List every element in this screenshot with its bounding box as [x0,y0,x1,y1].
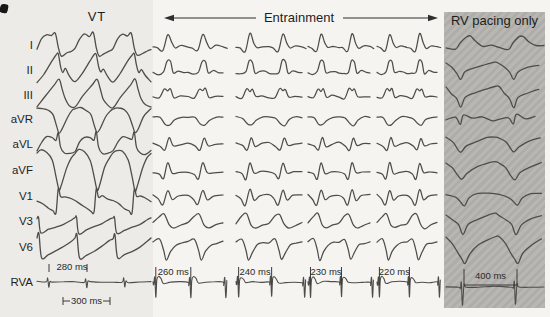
ecg-trace [153,138,223,151]
rv-pacing-section-label: RV pacing only [445,13,544,28]
ecg-trace [377,137,437,150]
ecg-trace [37,107,151,133]
rv-pacing-cycle-length-label: 400 ms [475,270,506,281]
entrainment-cycle-length-label-1: 240 ms [240,266,271,277]
ecg-trace [37,216,151,234]
ecg-trace [446,193,541,206]
lead-label-V3: V3 [19,215,33,227]
ecg-trace [37,232,151,259]
ecg-trace [308,34,374,52]
ecg-trace [37,132,151,155]
ecg-trace [153,163,223,180]
ecg-trace [37,79,151,108]
ecg-trace [236,239,302,261]
ecg-trace [153,239,223,261]
ecg-trace [236,189,302,206]
vt-bracket-interval-label: 300 ms [71,295,102,306]
ecg-trace [446,36,544,50]
lead-label-I: I [30,39,33,51]
ecg-trace [377,238,437,260]
ecg-trace [308,137,370,150]
ecg-trace [377,33,441,52]
ecg-trace [308,163,370,180]
entrainment-section-label: Entrainment [259,10,339,25]
lead-label-aVL: aVL [13,138,34,150]
ecg-trace [153,117,223,126]
ecg-trace [153,190,223,205]
ecg-trace [308,60,370,75]
ecg-trace [377,213,437,228]
lead-label-aVF: aVF [12,164,33,176]
ecg-trace [153,60,223,75]
ecg-trace [153,214,223,228]
ecg-trace [153,34,227,51]
entrainment-arrow-left-head-icon [164,15,174,22]
ecg-trace [377,88,437,98]
ecg-trace [446,137,540,152]
ecg-trace [446,114,535,124]
lead-label-III: III [23,89,33,101]
ecg-trace [153,88,223,98]
ecg-trace [308,116,370,125]
ecg-trace [236,163,302,180]
ecg-trace [37,278,151,288]
ecg-trace [377,162,437,179]
ecg-trace [37,188,151,215]
ecg-trace [37,149,151,191]
ecg-figure: IIIIIIaVRaVLaVFV1V3V6RVA280 ms300 ms260 … [0,0,550,317]
vt-cycle-length-label: 280 ms [56,261,87,272]
ecg-trace [446,162,541,180]
ecg-trace [377,116,437,125]
ecg-trace [236,117,302,126]
ecg-trace [308,213,370,228]
ecg-trace [308,238,370,260]
ecg-trace [236,138,302,150]
ecg-trace [37,53,151,83]
entrainment-cycle-length-label-3: 220 ms [379,266,410,277]
ecg-traces-canvas: IIIIIIaVRaVLaVFV1V3V6RVA280 ms300 ms260 … [0,0,550,317]
ecg-trace [308,276,373,297]
ecg-trace [236,33,306,52]
lead-label-V6: V6 [19,241,33,253]
ecg-trace [446,236,541,264]
lead-label-II: II [27,64,33,76]
ecg-trace [153,276,227,297]
lead-label-V1: V1 [19,190,33,202]
ecg-trace [308,190,370,206]
ecg-trace [236,276,306,297]
lead-label-aVR: aVR [11,113,33,125]
ecg-trace [446,62,539,79]
entrainment-cycle-length-label-0: 260 ms [158,266,189,277]
ecg-trace [446,213,541,235]
ecg-trace [236,88,302,98]
entrainment-cycle-length-label-2: 230 ms [310,266,341,277]
ecg-trace [377,276,440,297]
ecg-trace [236,213,302,228]
ecg-trace [236,59,302,74]
ecg-trace [446,86,539,108]
ecg-trace [377,190,437,206]
lead-label-RVA: RVA [10,276,33,288]
ecg-trace [377,60,437,75]
entrainment-arrow-right-head-icon [428,15,438,22]
ecg-trace [308,88,370,99]
vt-section-label: VT [77,9,117,24]
